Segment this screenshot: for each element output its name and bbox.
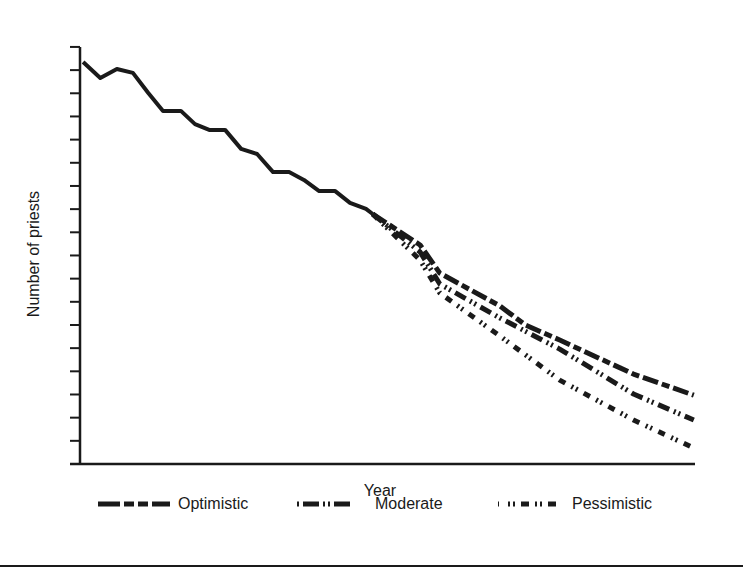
series-historical-line [83, 62, 373, 214]
legend-label: Optimistic [178, 495, 248, 513]
dash-dot-dot-line-icon [297, 499, 367, 509]
legend-label: Moderate [375, 495, 443, 513]
sparse-dash-dot-line-icon [498, 499, 564, 509]
legend-item-pessimistic: Pessimistic [498, 489, 652, 519]
legend-item-moderate: Moderate [297, 489, 443, 519]
long-dash-line-icon [98, 499, 170, 509]
legend-label: Pessimistic [572, 495, 652, 513]
chart-series [83, 62, 694, 448]
bottom-rule-divider [0, 565, 743, 567]
chart-legend: Optimistic Moderate Pessimistic [0, 489, 743, 519]
series-optimistic-line [373, 214, 694, 395]
y-axis-label: Number of priests [24, 154, 44, 354]
legend-item-optimistic: Optimistic [98, 489, 248, 519]
